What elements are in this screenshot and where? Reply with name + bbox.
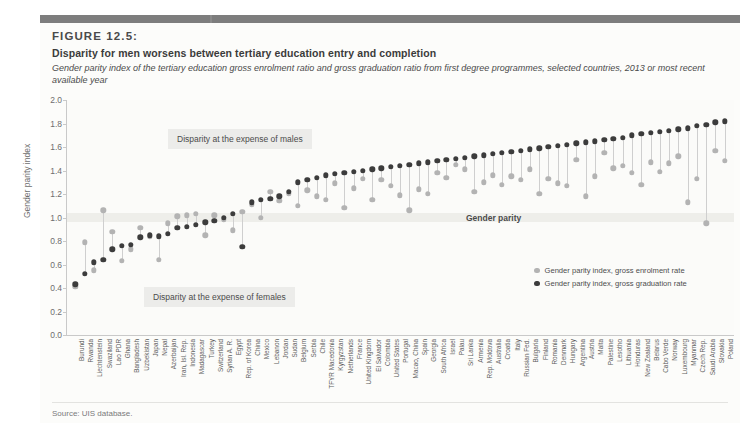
y-tick-label: 0.4 [50, 283, 62, 293]
source-note: Source: UIS database. [52, 409, 133, 418]
x-category-label: Mexico [263, 339, 270, 359]
x-category-label: Colombia [384, 339, 391, 366]
figure-number: FIGURE 12.5: [52, 30, 138, 42]
y-tick-label: 0.6 [50, 260, 62, 270]
x-category-label: Belgium [300, 339, 307, 362]
x-category-label: Indonesia [189, 339, 196, 367]
y-tick-label: 1.4 [50, 166, 62, 176]
x-category-label: Palestine [607, 339, 614, 365]
stem [419, 163, 420, 189]
x-category-label: Italy [514, 339, 521, 351]
stem [539, 148, 540, 194]
y-tick-label: 0.2 [50, 307, 62, 317]
footer-divider [52, 402, 728, 403]
x-category-label: Slovakia [718, 339, 725, 363]
x-category-label: Poland [727, 339, 734, 359]
x-category-label: Spain [421, 339, 428, 355]
legend-label: Gender parity index, gross enrolment rat… [545, 266, 685, 275]
legend-dot-enrolment-icon [534, 268, 540, 274]
stem [511, 152, 512, 177]
x-category-label: China [254, 339, 261, 356]
x-category-label: Netherlands [347, 339, 354, 373]
x-category-label: United Kingdom [365, 339, 372, 384]
x-category-label: Kyrgyzstan [337, 339, 344, 371]
stem [678, 129, 679, 156]
x-category-label: El Salvador [375, 339, 382, 372]
stem [409, 165, 410, 211]
x-category-label: Japan [152, 339, 159, 356]
x-category-label: Hungary [569, 339, 576, 363]
x-category-label: Iran, Isl. Rep. [180, 339, 187, 377]
stem [641, 134, 642, 185]
x-category-label: Switzerland [217, 339, 224, 372]
stem [595, 141, 596, 176]
x-category-label: Czech Rep. [699, 339, 706, 372]
x-category-label: Lao PDR [115, 339, 122, 365]
y-tick-label: 1.0 [50, 213, 62, 223]
x-category-label: United States [393, 339, 400, 377]
stem [706, 125, 707, 224]
x-category-label: Burundi [78, 339, 85, 361]
x-category-label: TFYR Macedonia [328, 339, 335, 389]
x-category-label: Portugal [402, 339, 409, 363]
x-axis-line [66, 335, 734, 336]
x-category-label: Honduras [634, 339, 641, 367]
x-category-label: Rep. of Korea [245, 339, 252, 378]
y-tick-label: 2.0 [50, 95, 62, 105]
header-bar [40, 15, 754, 23]
stem [567, 145, 568, 186]
stem [660, 132, 661, 172]
x-category-label: Uzbekistan [143, 339, 150, 371]
x-category-label: Serbia [310, 339, 317, 357]
stem [521, 151, 522, 180]
figure-page: FIGURE 12.5: Disparity for men worsens b… [0, 0, 754, 444]
x-category-label: Liechtenstein [96, 339, 103, 377]
x-category-label: Austria [588, 339, 595, 359]
stem [242, 212, 243, 247]
x-category-label: Jordan [282, 339, 289, 359]
x-category-label: Chile [319, 339, 326, 354]
x-category-label: Cabo Verde [662, 339, 669, 373]
gender-parity-label: Gender parity [466, 213, 521, 223]
x-category-label: Nepal [161, 339, 168, 356]
stem [548, 147, 549, 179]
stem [651, 133, 652, 162]
x-category-label: Swaziland [106, 339, 113, 368]
y-axis-line [66, 100, 67, 335]
y-tick-label: 0.0 [50, 330, 62, 340]
x-category-label: Luxembourg [681, 339, 688, 375]
stem [372, 169, 373, 200]
annotation-females: Disparity at the expense of females [144, 287, 295, 307]
x-category-label: Ghana [124, 339, 131, 358]
x-category-label: Sudan [291, 339, 298, 357]
stem [400, 166, 401, 195]
x-category-label: Lithuania [625, 339, 632, 365]
stem [669, 131, 670, 164]
y-axis-label: Gender parity index [22, 144, 32, 218]
annotation-males: Disparity at the expense of males [168, 129, 312, 149]
legend-label: Gender parity index, gross graduation ra… [545, 279, 687, 288]
x-category-label: Turkey [208, 339, 215, 358]
x-category-label: Australia [495, 339, 502, 364]
x-category-label: Bulgaria [532, 339, 539, 362]
x-category-label: Georgia [430, 339, 437, 362]
y-tick-label: 1.2 [50, 189, 62, 199]
y-tick-label: 1.6 [50, 142, 62, 152]
x-category-label: Azerbaijan [170, 339, 177, 369]
x-category-label: Lebanon [273, 339, 280, 364]
stem [688, 128, 689, 202]
x-category-label: France [356, 339, 363, 359]
x-category-label: Macao, China [412, 339, 419, 378]
stem [103, 210, 104, 259]
stem [428, 162, 429, 194]
stem [502, 153, 503, 185]
x-category-label: Bangladesh [133, 339, 140, 373]
figure-title: Disparity for men worsens between tertia… [52, 47, 436, 59]
stem [474, 156, 475, 191]
stem [484, 155, 485, 182]
x-category-label: Romania [551, 339, 558, 365]
x-category-label: Israel [449, 339, 456, 355]
x-category-label: Madagascar [198, 339, 205, 374]
x-category-label: Denmark [560, 339, 567, 365]
x-category-label: Russian Fed. [523, 339, 530, 377]
